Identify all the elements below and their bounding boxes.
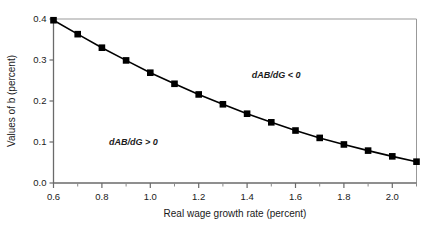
chart-annotation-2: dAB/dG > 0	[109, 137, 158, 147]
y-tick-label: 0.0	[33, 177, 46, 188]
x-tick-label: 1.2	[192, 191, 205, 202]
y-tick-label: 0.1	[33, 136, 46, 147]
plot-frame	[54, 19, 417, 183]
chart-annotation-1: dAB/dG < 0	[252, 70, 301, 80]
y-tick-label: 0.3	[33, 54, 46, 65]
data-point-marker	[268, 119, 275, 126]
data-point-marker	[123, 57, 130, 64]
y-tick-label: 0.4	[33, 13, 46, 24]
data-point-marker	[292, 127, 299, 134]
x-axis-title: Real wage growth rate (percent)	[164, 208, 307, 219]
x-tick-label: 0.6	[47, 191, 60, 202]
x-tick-label: 1.8	[337, 191, 350, 202]
data-point-marker	[341, 141, 348, 148]
x-tick-label: 1.6	[289, 191, 302, 202]
y-axis-title: Values of b (percent)	[6, 55, 17, 147]
data-point-marker	[389, 153, 396, 160]
data-point-marker	[50, 17, 57, 24]
line-chart: 0.00.10.20.30.40.60.81.01.21.41.61.82.0d…	[0, 0, 440, 236]
data-point-marker	[220, 101, 227, 108]
data-point-marker	[147, 69, 154, 76]
data-point-marker	[99, 44, 106, 51]
chart-container: 0.00.10.20.30.40.60.81.01.21.41.61.82.0d…	[0, 0, 440, 236]
x-tick-label: 1.4	[240, 191, 253, 202]
data-point-marker	[195, 91, 202, 98]
data-point-marker	[316, 135, 323, 142]
data-point-marker	[171, 80, 178, 87]
data-point-marker	[365, 147, 372, 154]
x-tick-label: 1.0	[144, 191, 157, 202]
x-tick-label: 2.0	[386, 191, 399, 202]
data-point-marker	[244, 110, 251, 117]
data-point-marker	[74, 31, 81, 38]
data-series-line	[54, 20, 417, 161]
x-tick-label: 0.8	[95, 191, 108, 202]
y-tick-label: 0.2	[33, 95, 46, 106]
data-point-marker	[413, 158, 420, 165]
